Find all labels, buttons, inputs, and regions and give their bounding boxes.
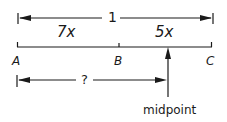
segment-bc-label: 5x [155,25,173,40]
arrowhead-left-icon [18,77,30,83]
point-b-label: B [114,55,122,67]
point-a-label: A [12,55,20,67]
arrowhead-right-icon [155,77,167,83]
midpoint-label: midpoint [143,104,196,116]
segment-ab-label: 7x [57,25,75,40]
unknown-distance-label: ? [81,73,88,86]
arrowhead-left-icon [19,15,31,21]
total-length-label: 1 [108,10,117,24]
arrowhead-up-icon [165,47,171,59]
arrowhead-right-icon [200,15,212,21]
segment-diagram: 1 7x 5x A B C ? midpoint [0,0,227,122]
point-c-label: C [206,55,214,67]
